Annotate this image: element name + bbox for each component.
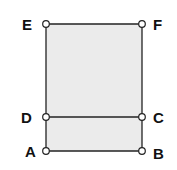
point-C-marker	[139, 114, 146, 121]
point-D-marker	[43, 114, 50, 121]
label-F: F	[153, 16, 162, 33]
rectangle-fill	[46, 24, 142, 151]
label-C: C	[153, 109, 164, 126]
label-A: A	[25, 143, 36, 160]
point-F-marker	[139, 21, 146, 28]
point-B-marker	[139, 148, 146, 155]
geometry-diagram: E F D C A B	[0, 0, 177, 170]
label-E: E	[22, 16, 32, 33]
point-E-marker	[43, 21, 50, 28]
label-B: B	[153, 145, 164, 162]
point-A-marker	[43, 148, 50, 155]
label-D: D	[21, 109, 32, 126]
